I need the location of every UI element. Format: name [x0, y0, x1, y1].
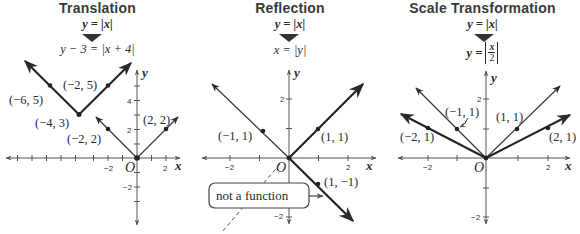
- y-tick-label: 2: [127, 126, 132, 135]
- panel-title: Scale Transformation: [385, 0, 580, 16]
- original-left-ray: [96, 117, 137, 158]
- panel-scale-transformation: Scale Transformation y = |x| y = x 2: [385, 0, 580, 234]
- y-axis-label: y: [140, 65, 148, 80]
- origin-point: [134, 155, 140, 161]
- absolute-value-bars: x 2: [485, 42, 498, 64]
- point-label: (−2, 2): [67, 132, 101, 146]
- y-tick-label: −2: [123, 183, 133, 192]
- point: [106, 83, 111, 88]
- point-label: (−2, 5): [63, 78, 97, 92]
- arrow-down-icon: [279, 34, 299, 42]
- translation-graph: −2 2 4 2 −2 x y O (−6, 5) (−2, 5) (−4, 3…: [6, 61, 182, 225]
- point: [48, 83, 53, 88]
- point-label: (2, 2): [143, 113, 170, 127]
- x-axis-label: x: [174, 158, 182, 173]
- original-equation: y = |x|: [385, 17, 580, 32]
- panel-title: Reflection: [195, 0, 385, 16]
- point-label: (−6, 5): [9, 93, 43, 107]
- original-equation: y = |x|: [195, 17, 385, 32]
- x-tick-label: −2: [104, 164, 114, 173]
- point: [164, 127, 169, 132]
- transformed-equation: y = x 2: [385, 42, 580, 64]
- transformed-equation: x = |y|: [195, 43, 385, 58]
- point: [106, 127, 111, 132]
- y-tick-label: 4: [127, 97, 132, 106]
- point-vertex: [77, 112, 82, 117]
- x-tick-label: 2: [163, 164, 168, 173]
- point-label: (−4, 3): [35, 116, 69, 130]
- panel-reflection: Reflection y = |x| x = |y|: [195, 0, 385, 234]
- fraction: x 2: [488, 42, 495, 63]
- origin-label: O: [125, 160, 135, 175]
